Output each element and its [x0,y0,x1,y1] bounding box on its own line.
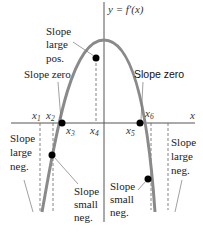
svg-text:large: large [10,146,32,158]
annotation-slope-large-neg-left: Slope large neg. [10,132,35,172]
leader-small-neg-right [138,181,146,190]
annotation-slope-zero-right: Slope zero [134,68,184,80]
svg-text:large: large [46,38,68,50]
x6-label: x6 [144,107,154,121]
svg-text:Slope: Slope [10,132,35,144]
svg-text:Slope: Slope [46,25,71,37]
point-x5-zero [137,120,144,127]
leader-zero-left [58,82,61,120]
x4-label: x4 [89,124,99,138]
svg-text:small: small [74,198,98,210]
annotation-slope-zero-left: Slope zero [24,68,71,80]
point-x3-zero [59,120,66,127]
svg-text:neg.: neg. [171,164,190,176]
svg-text:neg.: neg. [110,206,129,218]
annotation-slope-large-pos: Slope large pos. [46,25,71,64]
x3-label: x3 [65,124,75,138]
svg-text:Slope: Slope [171,136,196,148]
annotation-slope-large-neg-right: Slope large neg. [171,136,196,176]
svg-text:neg.: neg. [74,211,93,223]
curve-label: y = f′(x) [107,3,144,16]
svg-text:neg.: neg. [10,160,29,172]
annotation-slope-small-neg-right: Slope small neg. [110,180,135,218]
derivative-diagram: y = f′(x) x x1 x2 x3 x4 x5 x6 Slope larg… [0,0,203,232]
svg-text:Slope: Slope [110,180,135,192]
leader-large-neg-left [24,180,33,212]
x5-label: x5 [125,124,135,138]
svg-text:Slope: Slope [74,185,99,197]
svg-text:large: large [171,150,193,162]
x-axis-label: x [189,109,195,121]
x2-label: x2 [45,109,55,123]
leader-small-neg-left [54,157,78,184]
svg-text:pos.: pos. [46,52,64,64]
x1-label: x1 [31,109,41,123]
annotation-slope-small-neg-left: Slope small neg. [74,185,99,223]
svg-text:small: small [110,193,134,205]
leader-large-neg-right [175,180,182,212]
